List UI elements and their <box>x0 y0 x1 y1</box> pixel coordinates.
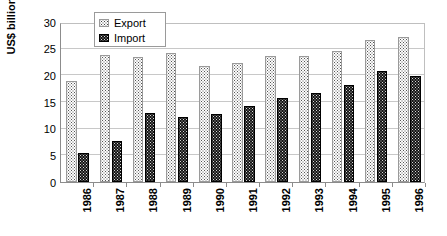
legend-label: Export <box>114 17 146 29</box>
bar-group <box>260 24 293 182</box>
x-tick-mark <box>160 183 161 187</box>
x-tick-mark <box>259 183 260 187</box>
bar-export <box>232 63 243 182</box>
x-tick-mark <box>93 183 94 187</box>
bar-export <box>365 40 376 182</box>
bar-import <box>178 117 189 182</box>
bar-export <box>166 53 177 182</box>
x-tick-label: 1986 <box>82 188 93 234</box>
chart-legend: ExportImport <box>94 12 166 47</box>
bar-group <box>227 24 260 182</box>
y-axis-tick-labels: 051015202530 <box>24 0 56 236</box>
plot-area <box>60 23 425 183</box>
bar-group <box>360 24 393 182</box>
bar-import <box>277 98 288 182</box>
bar-export <box>199 66 210 182</box>
x-tick-label: 1989 <box>182 188 193 234</box>
bar-export <box>398 37 409 182</box>
y-tick-label: 30 <box>24 18 56 29</box>
bar-group <box>393 24 426 182</box>
bar-export <box>100 55 111 182</box>
bar-import <box>377 71 388 182</box>
bar-group <box>127 24 160 182</box>
x-tick-label: 1994 <box>348 188 359 234</box>
legend-item: Export <box>99 15 162 30</box>
bar-import <box>112 141 123 182</box>
x-tick-mark <box>226 183 227 187</box>
x-axis-tick-labels: 1986198719881989199019911992199319941995… <box>60 190 425 236</box>
x-tick-mark <box>325 183 326 187</box>
y-tick-label: 20 <box>24 71 56 82</box>
bar-import <box>311 93 322 182</box>
x-tick-mark <box>425 183 426 187</box>
x-tick-mark <box>359 183 360 187</box>
bar-group <box>61 24 94 182</box>
bar-import <box>244 106 255 182</box>
x-tick-label: 1991 <box>248 188 259 234</box>
bar-import <box>78 153 89 182</box>
y-tick-label: 0 <box>24 178 56 189</box>
y-tick-label: 10 <box>24 124 56 135</box>
import-swatch-icon <box>99 34 109 42</box>
x-tick-label: 1995 <box>381 188 392 234</box>
legend-label: Import <box>114 32 145 44</box>
bar-export <box>299 56 310 182</box>
legend-item: Import <box>99 30 162 45</box>
x-tick-label: 1996 <box>414 188 425 234</box>
bar-chart: US$ billion 051015202530 198619871988198… <box>0 0 447 236</box>
bar-export <box>332 51 343 182</box>
export-swatch-icon <box>99 19 109 27</box>
bar-group <box>293 24 326 182</box>
x-tick-label: 1987 <box>115 188 126 234</box>
x-tick-label: 1990 <box>215 188 226 234</box>
bar-import <box>410 76 421 182</box>
y-tick-label: 5 <box>24 151 56 162</box>
x-tick-label: 1993 <box>314 188 325 234</box>
bars-layer <box>61 24 424 182</box>
y-tick-label: 25 <box>24 44 56 55</box>
y-axis-title: US$ billion <box>2 0 20 76</box>
bar-export <box>133 57 144 182</box>
bar-import <box>211 114 222 182</box>
bar-group <box>94 24 127 182</box>
x-tick-mark <box>193 183 194 187</box>
bar-group <box>326 24 359 182</box>
y-tick-label: 15 <box>24 98 56 109</box>
x-tick-label: 1988 <box>148 188 159 234</box>
x-tick-mark <box>292 183 293 187</box>
x-tick-label: 1992 <box>281 188 292 234</box>
x-tick-mark <box>392 183 393 187</box>
bar-import <box>344 85 355 182</box>
bar-import <box>145 113 156 182</box>
bar-group <box>194 24 227 182</box>
x-tick-mark <box>126 183 127 187</box>
bar-export <box>265 56 276 182</box>
bar-export <box>66 81 77 182</box>
bar-group <box>161 24 194 182</box>
